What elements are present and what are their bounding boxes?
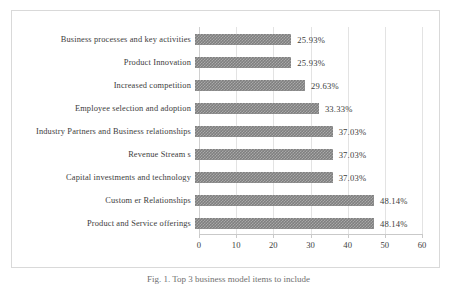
bar-value-label: 29.63% — [311, 81, 339, 91]
x-tick-mark — [422, 234, 423, 238]
gridline-60 — [422, 27, 423, 234]
x-tick-label: 50 — [381, 240, 390, 250]
bar-value-label: 37.03% — [339, 150, 367, 160]
chart-row: Product and Service offerings48.14% — [23, 212, 422, 235]
category-label: Revenue Stream s — [23, 150, 195, 160]
bar-container: 29.63% — [195, 74, 422, 97]
chart-row: Product Innovation25.93% — [23, 51, 422, 74]
x-tick-label: 60 — [418, 240, 427, 250]
bar[interactable] — [195, 34, 291, 45]
bar-value-label: 37.03% — [339, 127, 367, 137]
x-tick-label: 0 — [197, 240, 201, 250]
chart-row: Industry Partners and Business relations… — [23, 120, 422, 143]
bar-container: 25.93% — [195, 28, 422, 51]
bar-container: 25.93% — [195, 51, 422, 74]
category-label: Business processes and key activities — [23, 35, 195, 45]
bar-value-label: 33.33% — [325, 104, 353, 114]
bar[interactable] — [195, 126, 333, 137]
chart-row: Employee selection and adoption33.33% — [23, 97, 422, 120]
bar-value-label: 25.93% — [297, 58, 325, 68]
bar-container: 37.03% — [195, 166, 422, 189]
category-label: Product and Service offerings — [23, 219, 195, 229]
x-tick-mark — [311, 234, 312, 238]
category-label: Industry Partners and Business relations… — [23, 127, 195, 137]
chart-row: Revenue Stream s37.03% — [23, 143, 422, 166]
bar[interactable] — [195, 218, 374, 229]
category-label: Capital investments and technology — [23, 173, 195, 183]
bar[interactable] — [195, 57, 291, 68]
category-label: Employee selection and adoption — [23, 104, 195, 114]
x-tick-label: 40 — [343, 240, 352, 250]
bar[interactable] — [195, 195, 374, 206]
bar-container: 48.14% — [195, 189, 422, 212]
category-label: Custom er Relationships — [23, 196, 195, 206]
bar-container: 33.33% — [195, 97, 422, 120]
chart-row: Increased competition29.63% — [23, 74, 422, 97]
x-tick-mark — [236, 234, 237, 238]
bar-container: 37.03% — [195, 120, 422, 143]
category-label: Increased competition — [23, 81, 195, 91]
x-tick-mark — [199, 234, 200, 238]
chart-row: Business processes and key activities25.… — [23, 28, 422, 51]
chart-plot-area: Business processes and key activities25.… — [199, 27, 422, 234]
category-label: Product Innovation — [23, 58, 195, 68]
bar[interactable] — [195, 172, 333, 183]
x-tick-mark — [385, 234, 386, 238]
x-tick-label: 30 — [306, 240, 315, 250]
x-tick-mark — [348, 234, 349, 238]
bar[interactable] — [195, 80, 305, 91]
bar[interactable] — [195, 103, 319, 114]
x-tick-label: 10 — [232, 240, 241, 250]
x-tick-mark — [273, 234, 274, 238]
bar-container: 48.14% — [195, 212, 422, 235]
figure-frame: Business processes and key activities25.… — [11, 10, 440, 268]
bar-container: 37.03% — [195, 143, 422, 166]
chart-row: Capital investments and technology37.03% — [23, 166, 422, 189]
bar-value-label: 48.14% — [380, 219, 408, 229]
chart-row: Custom er Relationships48.14% — [23, 189, 422, 212]
x-tick-label: 20 — [269, 240, 278, 250]
bar-value-label: 25.93% — [297, 35, 325, 45]
bar[interactable] — [195, 149, 333, 160]
bar-value-label: 48.14% — [380, 196, 408, 206]
figure-caption: Fig. 1. Top 3 business model items to in… — [0, 274, 457, 284]
bar-value-label: 37.03% — [339, 173, 367, 183]
